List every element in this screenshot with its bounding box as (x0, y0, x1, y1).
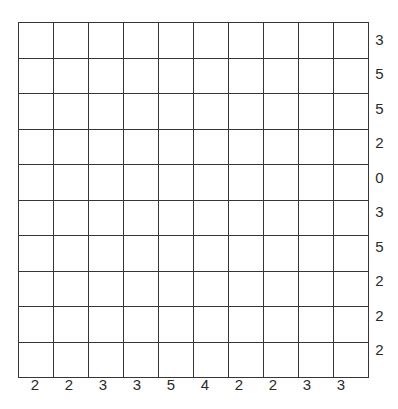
grid-cell[interactable] (194, 200, 229, 236)
grid-cell[interactable] (229, 271, 264, 307)
grid-cell[interactable] (194, 94, 229, 130)
grid-cell[interactable] (229, 94, 264, 130)
row-clue-6: 5 (358, 229, 398, 264)
grid-cell[interactable] (264, 271, 299, 307)
grid-cell[interactable] (194, 165, 229, 201)
grid-cell[interactable] (264, 236, 299, 272)
row-clue-9: 2 (358, 333, 398, 368)
grid-puzzle: 3552035222 2233542233 (0, 0, 398, 409)
grid-cell[interactable] (194, 129, 229, 165)
grid-cell[interactable] (19, 23, 54, 59)
grid-cell[interactable] (54, 23, 89, 59)
grid-cell[interactable] (19, 129, 54, 165)
grid-cell[interactable] (124, 307, 159, 343)
grid-cell[interactable] (229, 165, 264, 201)
grid-cell[interactable] (299, 94, 334, 130)
column-clue-3: 3 (120, 367, 154, 397)
row-clue-0: 3 (358, 22, 398, 57)
grid-cell[interactable] (54, 58, 89, 94)
grid-cell[interactable] (124, 129, 159, 165)
grid-cell[interactable] (264, 307, 299, 343)
grid-cell[interactable] (89, 307, 124, 343)
grid-cell[interactable] (159, 236, 194, 272)
column-clue-9: 3 (324, 367, 358, 397)
grid-row (19, 129, 369, 165)
grid-cell[interactable] (229, 129, 264, 165)
grid-body (19, 23, 369, 378)
grid-cell[interactable] (19, 271, 54, 307)
row-clue-labels: 3552035222 (358, 22, 398, 367)
grid-cell[interactable] (229, 236, 264, 272)
grid-cell[interactable] (299, 23, 334, 59)
grid-cell[interactable] (54, 307, 89, 343)
grid-cell[interactable] (299, 165, 334, 201)
grid-cell[interactable] (299, 129, 334, 165)
grid-cell[interactable] (19, 58, 54, 94)
grid-cell[interactable] (264, 23, 299, 59)
grid-cell[interactable] (264, 58, 299, 94)
grid-cell[interactable] (229, 23, 264, 59)
grid-cell[interactable] (124, 165, 159, 201)
grid-cell[interactable] (159, 58, 194, 94)
grid-cell[interactable] (124, 271, 159, 307)
grid-cell[interactable] (54, 271, 89, 307)
grid-cell[interactable] (19, 236, 54, 272)
column-clue-2: 3 (86, 367, 120, 397)
grid-cell[interactable] (159, 307, 194, 343)
grid-cell[interactable] (159, 200, 194, 236)
grid-cell[interactable] (54, 236, 89, 272)
grid-cell[interactable] (89, 271, 124, 307)
grid-cell[interactable] (54, 94, 89, 130)
grid-cell[interactable] (194, 236, 229, 272)
grid-cell[interactable] (19, 94, 54, 130)
grid-cell[interactable] (264, 94, 299, 130)
grid-cell[interactable] (264, 165, 299, 201)
grid-cell[interactable] (159, 23, 194, 59)
grid-cell[interactable] (89, 165, 124, 201)
grid-cell[interactable] (124, 236, 159, 272)
grid-cell[interactable] (159, 165, 194, 201)
grid-cell[interactable] (194, 271, 229, 307)
grid-cell[interactable] (194, 23, 229, 59)
grid-cell[interactable] (89, 23, 124, 59)
grid-cell[interactable] (264, 129, 299, 165)
grid-cell[interactable] (299, 58, 334, 94)
grid-cell[interactable] (89, 236, 124, 272)
grid-cell[interactable] (264, 200, 299, 236)
grid-cell[interactable] (299, 236, 334, 272)
grid-cell[interactable] (229, 58, 264, 94)
grid-cell[interactable] (124, 200, 159, 236)
grid-cell[interactable] (19, 200, 54, 236)
grid-cell[interactable] (229, 307, 264, 343)
grid-cell[interactable] (229, 200, 264, 236)
grid-row (19, 23, 369, 59)
grid-cell[interactable] (54, 200, 89, 236)
grid-cell[interactable] (194, 307, 229, 343)
grid-cell[interactable] (19, 165, 54, 201)
grid-cell[interactable] (159, 129, 194, 165)
column-clue-8: 3 (290, 367, 324, 397)
grid-row (19, 307, 369, 343)
grid-cell[interactable] (89, 129, 124, 165)
grid-cell[interactable] (89, 58, 124, 94)
grid-cell[interactable] (159, 271, 194, 307)
grid-cell[interactable] (89, 94, 124, 130)
grid-cell[interactable] (54, 165, 89, 201)
row-clue-7: 2 (358, 264, 398, 299)
column-clue-1: 2 (52, 367, 86, 397)
grid-cell[interactable] (194, 58, 229, 94)
grid-cell[interactable] (159, 94, 194, 130)
grid-cell[interactable] (299, 271, 334, 307)
grid-cell[interactable] (124, 94, 159, 130)
grid-cell[interactable] (299, 307, 334, 343)
puzzle-grid[interactable] (18, 22, 369, 378)
grid-cell[interactable] (124, 58, 159, 94)
grid-cell[interactable] (54, 129, 89, 165)
grid-row (19, 200, 369, 236)
row-clue-1: 5 (358, 57, 398, 92)
grid-cell[interactable] (89, 200, 124, 236)
grid-cell[interactable] (124, 23, 159, 59)
grid-cell[interactable] (299, 200, 334, 236)
grid-cell[interactable] (19, 307, 54, 343)
grid-row (19, 165, 369, 201)
